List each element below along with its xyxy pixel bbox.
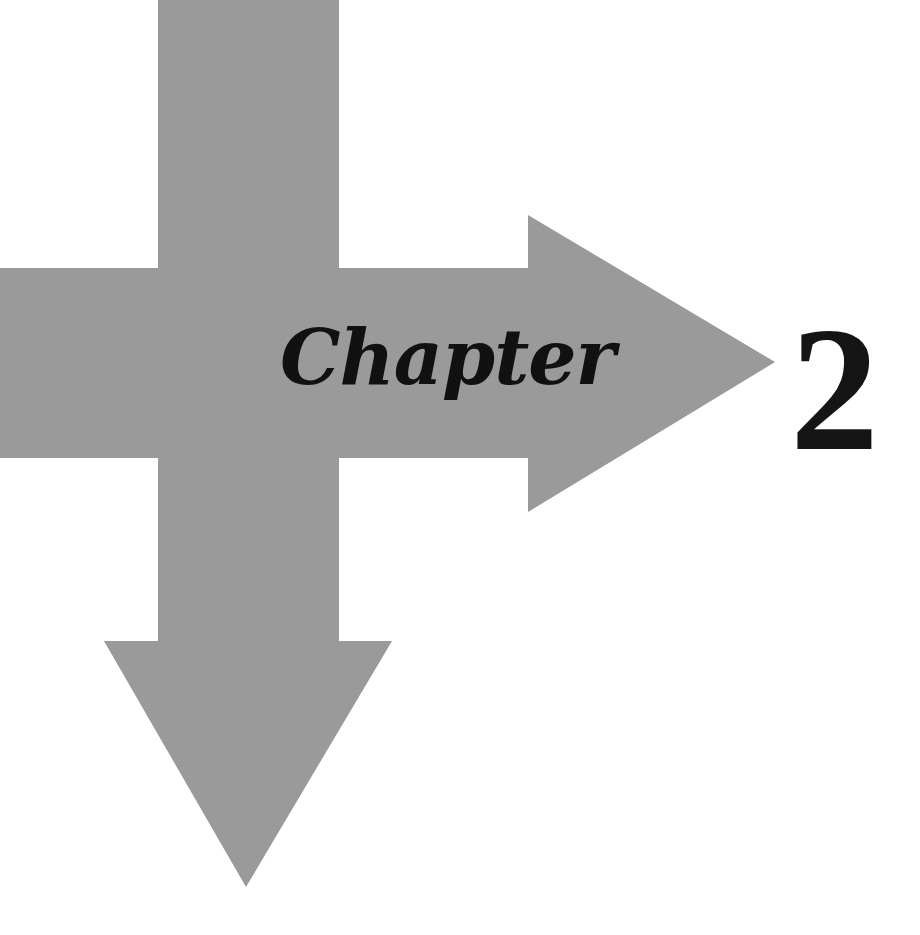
arrows-graphic xyxy=(0,0,920,935)
chapter-title-page: Chapter 2 xyxy=(0,0,920,935)
chapter-number: 2 xyxy=(790,300,879,478)
chapter-label: Chapter xyxy=(280,320,615,396)
